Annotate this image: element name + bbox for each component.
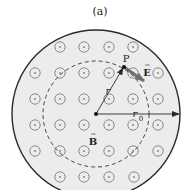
magnetic-field-letter: B <box>89 136 97 147</box>
electric-field-letter: E <box>143 67 151 78</box>
magnetic-field-diagram: (a) P r r 0 E → B → <box>0 0 191 190</box>
center-point <box>94 112 98 116</box>
electric-field-vector-arrow-icon: → <box>144 61 149 68</box>
point-p <box>122 65 126 69</box>
panel-label: (a) <box>92 5 107 18</box>
radius-r0-subscript: 0 <box>139 115 143 123</box>
point-p-label: P <box>123 53 130 64</box>
field-region-circle <box>12 30 180 190</box>
magnetic-field-vector-arrow-icon: → <box>90 130 95 137</box>
